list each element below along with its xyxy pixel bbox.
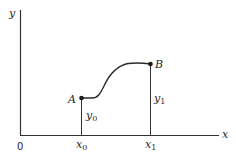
x1-label-sub: 1 xyxy=(151,143,156,152)
x1-label: x1 xyxy=(145,138,156,152)
curve-a-to-b xyxy=(82,63,151,98)
y1-label: y1 xyxy=(153,92,165,106)
y-axis-label: y xyxy=(8,7,16,20)
y0-label-sub: 0 xyxy=(92,114,97,123)
x0-label: x0 xyxy=(76,138,87,152)
x0-label-sub: 0 xyxy=(82,143,87,152)
function-graph: y x 0 A B y0 y1 x0 x1 xyxy=(0,0,236,161)
point-b xyxy=(148,62,153,67)
point-a xyxy=(79,96,84,101)
y0-label: y0 xyxy=(85,109,97,123)
point-a-label: A xyxy=(67,93,76,106)
x-axis-label: x xyxy=(222,128,229,141)
point-b-label: B xyxy=(154,58,163,71)
y1-label-sub: 1 xyxy=(160,97,165,106)
origin-label: 0 xyxy=(17,141,23,152)
